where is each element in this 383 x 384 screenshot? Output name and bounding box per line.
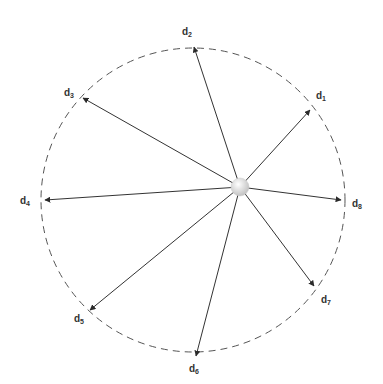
- dashed-boundary-circle: [41, 48, 345, 352]
- label-subscript: 1: [322, 95, 326, 102]
- arrow-d2: [194, 47, 240, 187]
- arrow-d5: [90, 187, 240, 310]
- label-d4: d4: [20, 196, 30, 207]
- arrow-d7: [240, 187, 314, 286]
- radial-vector-diagram: d1d2d3d4d5d6d7d8: [0, 0, 383, 384]
- label-d5: d5: [74, 314, 84, 325]
- arrow-d3: [83, 98, 240, 187]
- diagram-canvas: [0, 0, 383, 384]
- label-subscript: 7: [327, 299, 331, 306]
- label-subscript: 2: [188, 31, 192, 38]
- arrow-d4: [45, 187, 240, 200]
- label-d6: d6: [189, 364, 199, 375]
- label-subscript: 3: [70, 92, 74, 99]
- center-node: [231, 178, 249, 196]
- arrow-d6: [196, 187, 240, 356]
- arrow-d8: [240, 187, 341, 200]
- label-d1: d1: [316, 91, 326, 102]
- label-subscript: 5: [80, 318, 84, 325]
- direction-arrows: [45, 47, 341, 356]
- label-d2: d2: [182, 27, 192, 38]
- label-subscript: 4: [26, 200, 30, 207]
- label-subscript: 8: [358, 203, 362, 210]
- label-d3: d3: [64, 88, 74, 99]
- label-subscript: 6: [195, 368, 199, 375]
- arrow-d1: [240, 110, 310, 187]
- label-d8: d8: [352, 199, 362, 210]
- label-d7: d7: [321, 295, 331, 306]
